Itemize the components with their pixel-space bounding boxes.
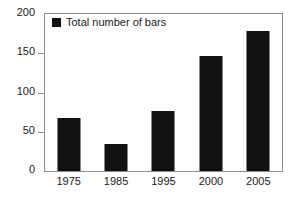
y-axis-tick-label: 0 bbox=[29, 164, 35, 175]
legend-label: Total number of bars bbox=[66, 16, 166, 28]
bar-slot bbox=[235, 14, 282, 171]
y-axis-tick-label: 50 bbox=[23, 125, 35, 136]
y-axis-tick-mark bbox=[38, 53, 44, 54]
y-axis-tick-mark bbox=[38, 93, 44, 94]
bar-slot bbox=[92, 14, 139, 171]
x-axis-tick-label: 2000 bbox=[187, 175, 234, 187]
bar bbox=[57, 118, 80, 171]
x-axis-tick-label: 2005 bbox=[235, 175, 282, 187]
bar-slot bbox=[187, 14, 234, 171]
y-axis-tick-label: 200 bbox=[17, 7, 35, 18]
bar-slot bbox=[140, 14, 187, 171]
chart-legend: Total number of bars bbox=[52, 16, 166, 28]
legend-swatch-icon bbox=[52, 18, 61, 27]
bar bbox=[152, 111, 175, 171]
bar-slot bbox=[45, 14, 92, 171]
y-axis-tick-label: 150 bbox=[17, 46, 35, 57]
bar-chart-figure: 050100150200 19751985199520002005 Total … bbox=[0, 0, 296, 199]
x-axis-tick-label: 1995 bbox=[140, 175, 187, 187]
x-axis-tick-label: 1985 bbox=[92, 175, 139, 187]
bars-layer bbox=[45, 14, 282, 171]
y-axis-tick-label: 100 bbox=[17, 86, 35, 97]
x-axis-tick-label: 1975 bbox=[45, 175, 92, 187]
bar bbox=[199, 56, 222, 171]
bar bbox=[247, 31, 270, 171]
bar bbox=[105, 144, 128, 171]
x-axis: 19751985199520002005 bbox=[45, 175, 282, 195]
y-axis: 050100150200 bbox=[0, 0, 44, 199]
y-axis-tick-mark bbox=[38, 132, 44, 133]
